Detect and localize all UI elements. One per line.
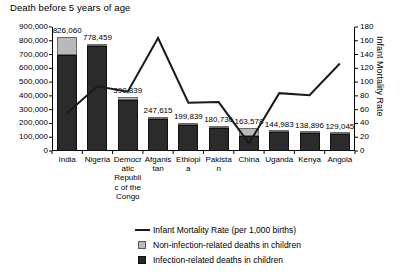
y2-tick-label: 180 bbox=[360, 23, 373, 31]
legend-light-swatch-icon bbox=[131, 241, 153, 249]
bar-column bbox=[330, 133, 350, 151]
y-tick-label: 800,000 bbox=[2, 37, 48, 45]
y2-tick-label: 140 bbox=[360, 51, 373, 59]
x-category-label: Nigeria bbox=[83, 155, 111, 164]
chart-title: Death before 5 years of age bbox=[10, 2, 130, 13]
y2-tick-label: 120 bbox=[360, 64, 373, 72]
legend-label: Non-infection-related deaths in children bbox=[153, 240, 301, 250]
x-category-label: Pakistan bbox=[205, 155, 233, 173]
y2-tick-label: 80 bbox=[360, 92, 369, 100]
y2-tick-label: 60 bbox=[360, 106, 369, 114]
bar-value-label: 129,045 bbox=[318, 123, 362, 131]
x-category-label: China bbox=[235, 155, 263, 164]
x-category-label: Afganistan bbox=[144, 155, 172, 173]
bar-column bbox=[209, 126, 229, 151]
y-tick-label: 700,000 bbox=[2, 51, 48, 59]
bar-segment-infection bbox=[209, 128, 229, 151]
bar-segment-non-infection bbox=[330, 132, 350, 134]
x-category-label: Democratic Republic of the Congo bbox=[114, 155, 142, 201]
legend-line-icon bbox=[131, 229, 153, 231]
legend-item: Non-infection-related deaths in children bbox=[131, 237, 301, 252]
legend-label: Infant Mortality Rate (per 1,000 births) bbox=[153, 225, 296, 235]
y2-tick-label: 160 bbox=[360, 37, 373, 45]
bar-segment-infection bbox=[118, 100, 138, 151]
bar-segment-infection bbox=[300, 133, 320, 151]
y-tick-label: 500,000 bbox=[2, 78, 48, 86]
bar-segment-non-infection bbox=[300, 131, 320, 133]
bar-segment-non-infection bbox=[269, 130, 289, 132]
x-category-label: Ethiopia bbox=[174, 155, 202, 173]
bar-segment-infection bbox=[239, 136, 259, 151]
bar-segment-non-infection bbox=[87, 44, 107, 46]
bar-column bbox=[148, 117, 168, 151]
y-tick-label: 200,000 bbox=[2, 119, 48, 127]
bar-segment-infection bbox=[87, 46, 107, 151]
bar-segment-non-infection bbox=[209, 126, 229, 128]
bar-segment-infection bbox=[330, 134, 350, 151]
chart-legend: Infant Mortality Rate (per 1,000 births)… bbox=[131, 222, 301, 267]
legend-item: Infant Mortality Rate (per 1,000 births) bbox=[131, 222, 301, 237]
legend-dark-swatch-icon bbox=[131, 256, 153, 264]
y2-tick-label: 0 bbox=[360, 147, 364, 155]
y-tick-label: 400,000 bbox=[2, 92, 48, 100]
y-tick-label: 600,000 bbox=[2, 64, 48, 72]
y-tick-label: 100,000 bbox=[2, 133, 48, 141]
bar-column bbox=[57, 37, 77, 151]
bar-column bbox=[300, 132, 320, 151]
bar-column bbox=[118, 97, 138, 151]
bar-segment-non-infection bbox=[178, 123, 198, 125]
bar-segment-infection bbox=[57, 55, 77, 151]
legend-label: Infection-related deaths in children bbox=[153, 255, 283, 265]
legend-item: Infection-related deaths in children bbox=[131, 252, 301, 267]
y-tick-label: 0 bbox=[2, 147, 48, 155]
bar-segment-non-infection bbox=[118, 97, 138, 100]
x-category-label: Kenya bbox=[295, 155, 323, 164]
chart-container: Death before 5 years of age 900,000800,0… bbox=[0, 0, 417, 277]
bar-segment-infection bbox=[269, 132, 289, 151]
x-category-label: India bbox=[53, 155, 81, 164]
bar-segment-infection bbox=[178, 125, 198, 151]
y2-tick-label: 20 bbox=[360, 133, 369, 141]
bar-column bbox=[178, 123, 198, 151]
bar-segment-non-infection bbox=[239, 128, 259, 135]
bar-value-label: 778,459 bbox=[75, 34, 119, 42]
bar-segment-non-infection bbox=[57, 37, 77, 54]
bar-segment-infection bbox=[148, 119, 168, 151]
bar-segment-non-infection bbox=[148, 117, 168, 119]
x-category-label: Uganda bbox=[265, 155, 293, 164]
y-tick-label: 300,000 bbox=[2, 106, 48, 114]
bar-column bbox=[87, 44, 107, 151]
y2-tick-label: 100 bbox=[360, 78, 373, 86]
bar-value-label: 390,839 bbox=[106, 87, 150, 95]
y-tick-label: 900,000 bbox=[2, 23, 48, 31]
x-category-label: Angola bbox=[326, 155, 354, 164]
y-axis-right-title: Infant Mortality Rate bbox=[375, 36, 385, 146]
bar-column bbox=[269, 131, 289, 151]
bar-column bbox=[239, 128, 259, 151]
